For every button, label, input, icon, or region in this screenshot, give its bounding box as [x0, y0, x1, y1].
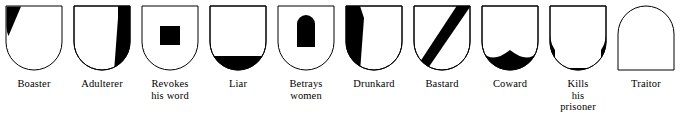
- shield-item-coward: Coward: [476, 4, 544, 90]
- shield-label-coward: Coward: [477, 78, 543, 90]
- shield-item-drunkard: Drunkard: [340, 4, 408, 90]
- shield-label-drunkard: Drunkard: [341, 78, 407, 90]
- shield-drunkard-icon: [344, 4, 404, 72]
- shield-item-bastard: Bastard: [408, 4, 476, 90]
- shield-label-adulterer: Adulterer: [69, 78, 135, 90]
- shield-traitor-icon: [616, 4, 676, 72]
- shield-label-revokes-his-word: Revokes his word: [137, 78, 203, 101]
- shield-label-traitor: Traitor: [613, 78, 679, 90]
- shield-bastard-icon: [412, 4, 472, 72]
- shield-item-betrays-women: Betrays women: [272, 4, 340, 101]
- shield-item-adulterer: Adulterer: [68, 4, 136, 90]
- shield-coward-icon: [480, 4, 540, 72]
- shield-item-liar: Liar: [204, 4, 272, 90]
- shield-boaster-icon: [4, 4, 64, 72]
- shield-betrays-women-icon: [276, 4, 336, 72]
- shield-label-bastard: Bastard: [409, 78, 475, 90]
- shield-item-boaster: Boaster: [0, 4, 68, 90]
- shield-label-liar: Liar: [205, 78, 271, 90]
- shield-label-boaster: Boaster: [1, 78, 67, 90]
- shield-label-kills-his-prisoner: Kills his prisoner: [545, 78, 611, 113]
- shield-item-kills-his-prisoner: Kills his prisoner: [544, 4, 612, 113]
- abatements-figure: Boaster Adulterer: [0, 0, 681, 122]
- shield-item-traitor: Traitor: [612, 4, 680, 90]
- shield-label-betrays-women: Betrays women: [273, 78, 339, 101]
- shield-liar-icon: [208, 4, 268, 72]
- shield-row: Boaster Adulterer: [0, 0, 681, 113]
- shield-item-revokes-his-word: Revokes his word: [136, 4, 204, 101]
- shield-revokes-his-word-icon: [140, 4, 200, 72]
- shield-adulterer-icon: [72, 4, 132, 72]
- shield-kills-his-prisoner-icon: [548, 4, 608, 72]
